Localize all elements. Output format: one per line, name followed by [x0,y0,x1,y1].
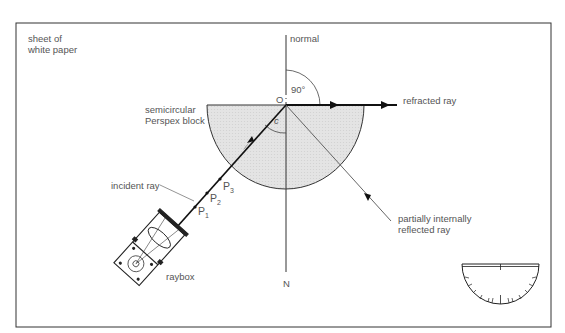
block-label: semicircular Perspex block [145,104,205,126]
normal-label: normal [290,33,319,44]
p3-subscript: 3 [230,187,234,194]
critical-angle-label: c [274,115,279,126]
origin-label: O [276,94,283,105]
p2-subscript: 2 [217,199,221,206]
p2-letter: P [210,192,217,204]
paper-label: sheet of white paper [28,33,77,55]
reflected-label: partially internally reflected ray [398,213,471,235]
reflected-label-line1: partially internally [398,213,471,224]
p2-label: P2 [210,193,221,208]
p3-label: P3 [223,181,234,196]
angle-90-label: 90° [291,84,305,95]
p1-letter: P [198,205,205,217]
refracted-label: refracted ray [403,95,456,106]
block-label-line1: semicircular [145,104,205,115]
normal-end-label: N [283,278,290,289]
paper-label-line1: sheet of [28,33,77,44]
p1-label: P1 [198,206,209,221]
pin-p2 [205,191,208,194]
pin-p1 [193,205,196,208]
pin-p3 [218,177,221,180]
incident-label: incident ray [111,180,160,191]
paper-label-line2: white paper [28,44,77,55]
block-label-line2: Perspex block [145,115,205,126]
p1-subscript: 1 [205,212,209,219]
reflected-label-line2: reflected ray [398,224,471,235]
raybox-label: raybox [166,271,195,282]
p3-letter: P [223,180,230,192]
